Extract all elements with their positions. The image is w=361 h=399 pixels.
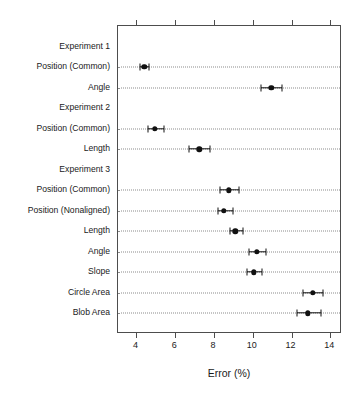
group-label: Experiment 2 [59,102,110,112]
data-point-marker [269,85,274,90]
x-tick-top [292,20,293,26]
error-bar-cap-low [246,269,247,276]
plot-panel [117,25,341,333]
grid-line [118,251,340,252]
data-point-marker [197,146,202,151]
error-bar-cap-low [188,146,189,153]
row-label-column: Experiment 1Position (Common)AngleExperi… [0,0,113,399]
error-bar-cap-low [219,187,220,194]
chart-figure: Experiment 1Position (Common)AngleExperi… [0,0,361,399]
x-tick-bottom [292,332,293,338]
x-tick-bottom [136,332,137,338]
data-point-marker [152,126,157,131]
x-tick-bottom [330,332,331,338]
grid-line [118,87,340,88]
x-tick-top [214,20,215,26]
group-label: Experiment 3 [59,164,110,174]
error-bar-cap-high [322,289,323,296]
x-tick-label: 4 [133,340,138,350]
data-point-marker [141,64,146,69]
error-bar-cap-high [239,187,240,194]
row-label: Position (Common) [36,123,110,133]
data-point-marker [254,249,259,254]
row-label: Angle [88,246,110,256]
x-tick-top [136,20,137,26]
row-label: Position (Common) [36,61,110,71]
x-tick-top [253,20,254,26]
x-tick-bottom [253,332,254,338]
error-bar-cap-high [243,228,244,235]
row-label: Angle [88,82,110,92]
error-bar-cap-high [210,146,211,153]
error-bar-cap-low [248,248,249,255]
row-label: Position (Common) [36,184,110,194]
data-point-marker [310,290,315,295]
error-bar-cap-low [148,125,149,132]
grid-line [118,67,340,68]
x-tick-top [330,20,331,26]
row-label: Blob Area [73,307,110,317]
x-tick-top [175,20,176,26]
x-tick-bottom [214,332,215,338]
error-bar-cap-high [163,125,164,132]
error-bar-cap-high [233,207,234,214]
x-tick-label: 12 [286,340,296,350]
row-label: Position (Nonaligned) [28,205,110,215]
data-point-marker [251,270,256,275]
error-bar-cap-low [260,84,261,91]
error-bar-cap-high [149,64,150,71]
x-tick-bottom [175,332,176,338]
x-tick-label: 14 [324,340,334,350]
data-point-marker [233,229,238,234]
row-label: Length [84,225,110,235]
x-axis-title: Error (%) [117,367,341,379]
grid-line [118,149,340,150]
grid-line [118,272,340,273]
x-tick-label: 8 [210,340,215,350]
group-label: Experiment 1 [59,41,110,51]
error-bar-cap-low [303,289,304,296]
error-bar-cap-low [230,228,231,235]
data-point-marker [226,188,231,193]
error-bar-cap-high [266,248,267,255]
row-label: Slope [88,266,110,276]
x-tick-label: 10 [247,340,257,350]
error-bar-cap-low [217,207,218,214]
data-point-marker [305,311,310,316]
error-bar-cap-low [297,310,298,317]
row-label: Circle Area [68,287,110,297]
error-bar-cap-high [261,269,262,276]
row-label: Length [84,143,110,153]
x-tick-label: 6 [172,340,177,350]
error-bar-cap-high [281,84,282,91]
data-point-marker [221,208,226,213]
error-bar-cap-high [320,310,321,317]
